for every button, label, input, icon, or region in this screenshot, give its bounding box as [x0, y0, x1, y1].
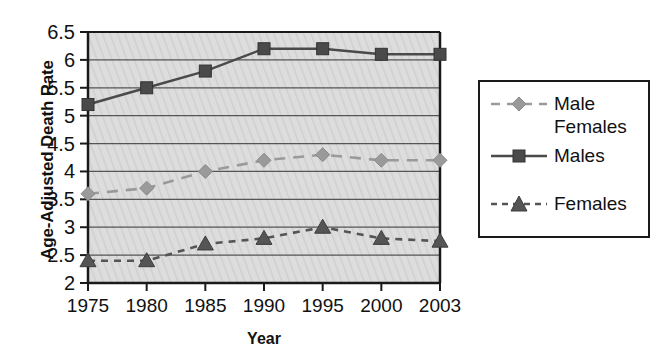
x-tick-label: 2003: [419, 295, 461, 316]
data-point-marker: [82, 99, 94, 111]
data-point-marker: [317, 43, 329, 55]
data-point-marker: [375, 48, 387, 60]
legend-label-male-females: Male Females: [554, 92, 627, 138]
y-tick-label: 5: [64, 105, 75, 127]
legend-label-males: Males: [554, 144, 605, 167]
x-tick-label: 1985: [184, 295, 226, 316]
legend-marker-square-icon: [490, 145, 548, 167]
data-point-marker: [258, 43, 270, 55]
y-tick-label: 3: [64, 216, 75, 238]
x-tick-label: 1980: [126, 295, 168, 316]
legend-item-females[interactable]: Females: [490, 192, 627, 215]
y-tick-label: 5.5: [47, 77, 75, 99]
y-tick-label: 4.5: [47, 133, 75, 155]
x-tick-label: 2000: [360, 295, 402, 316]
x-tick-labels: 1975198019851990199520002003: [67, 295, 461, 316]
data-point-marker: [199, 65, 211, 77]
y-tick-label: 2.5: [47, 244, 75, 266]
chart-figure: Age-Adjusted Death Rate Year 22.533.544.…: [0, 0, 670, 358]
y-tick-label: 2: [64, 272, 75, 294]
y-tick-label: 3.5: [47, 188, 75, 210]
data-point-marker: [141, 82, 153, 94]
legend-marker-diamond-icon: [490, 93, 548, 115]
x-tick-label: 1990: [243, 295, 285, 316]
legend-label-females: Females: [554, 192, 627, 215]
legend-item-males[interactable]: Males: [490, 144, 605, 167]
y-tick-label: 6: [64, 49, 75, 71]
x-tick-label: 1975: [67, 295, 109, 316]
y-tick-labels: 22.533.544.555.566.5: [47, 21, 75, 294]
legend-item-male-females[interactable]: Male Females: [490, 92, 627, 138]
data-point-marker: [434, 48, 446, 60]
legend-marker-triangle-icon: [490, 193, 548, 215]
legend-box: Male Females Males Females: [478, 80, 650, 238]
x-tick-label: 1995: [302, 295, 344, 316]
y-tick-label: 4: [64, 160, 75, 182]
y-tick-label: 6.5: [47, 21, 75, 43]
